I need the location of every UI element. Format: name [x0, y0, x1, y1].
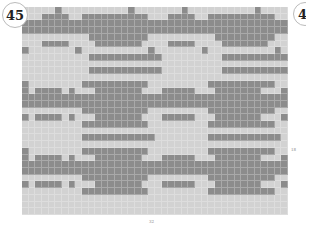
grid-cell [128, 134, 135, 141]
grid-cell [148, 41, 155, 48]
grid-cell [208, 208, 215, 215]
grid-cell [208, 101, 215, 108]
grid-cell [241, 208, 248, 215]
grid-cell [202, 188, 209, 195]
grid-cell [135, 134, 142, 141]
grid-cell [122, 128, 129, 135]
grid-cell [162, 14, 169, 21]
grid-cell [128, 202, 135, 209]
grid-cell [95, 121, 102, 128]
grid-cell [241, 61, 248, 68]
grid-cell [168, 121, 175, 128]
grid-cell [195, 7, 202, 14]
grid-cell [49, 141, 56, 148]
grid-cell [89, 101, 96, 108]
grid-cell [95, 14, 102, 21]
grid-cell [281, 14, 288, 21]
grid-cell [49, 148, 56, 155]
grid-cell [135, 81, 142, 88]
grid-cell [42, 61, 49, 68]
grid-cell [35, 202, 42, 209]
grid-cell [22, 88, 29, 95]
grid-cell [108, 20, 115, 27]
grid-cell [268, 161, 275, 168]
grid-cell [202, 34, 209, 41]
grid-cell [228, 101, 235, 108]
grid-cell [202, 202, 209, 209]
grid-cell [69, 148, 76, 155]
grid-cell [222, 114, 229, 121]
grid-cell [175, 175, 182, 182]
grid-cell [49, 161, 56, 168]
grid-cell [128, 175, 135, 182]
grid-cell [82, 188, 89, 195]
grid-cell [42, 41, 49, 48]
grid-cell [69, 114, 76, 121]
grid-cell [62, 114, 69, 121]
grid-cell [82, 141, 89, 148]
grid-cell [275, 155, 282, 162]
grid-cell [188, 67, 195, 74]
grid-cell [69, 27, 76, 34]
grid-cell [135, 41, 142, 48]
grid-cell [188, 14, 195, 21]
grid-cell [255, 155, 262, 162]
grid-cell [255, 148, 262, 155]
grid-cell [208, 155, 215, 162]
grid-cell [95, 161, 102, 168]
grid-cell [89, 108, 96, 115]
grid-cell [62, 195, 69, 202]
grid-cell [42, 54, 49, 61]
grid-cell [122, 108, 129, 115]
grid-cell [142, 34, 149, 41]
grid-cell [195, 108, 202, 115]
grid-cell [75, 74, 82, 81]
grid-cell [155, 168, 162, 175]
grid-cell [102, 61, 109, 68]
grid-cell [89, 47, 96, 54]
grid-cell [108, 181, 115, 188]
grid-cell [35, 47, 42, 54]
grid-cell [268, 181, 275, 188]
grid-cell [261, 67, 268, 74]
grid-cell [62, 14, 69, 21]
grid-cell [102, 14, 109, 21]
grid-cell [228, 168, 235, 175]
grid-cell [168, 27, 175, 34]
grid-cell [228, 188, 235, 195]
grid-cell [261, 94, 268, 101]
grid-cell [69, 202, 76, 209]
grid-cell [29, 54, 36, 61]
grid-cell [148, 94, 155, 101]
grid-cell [168, 148, 175, 155]
grid-cell [162, 81, 169, 88]
grid-cell [155, 27, 162, 34]
grid-cell [228, 128, 235, 135]
grid-cell [22, 195, 29, 202]
grid-cell [275, 27, 282, 34]
grid-cell [188, 47, 195, 54]
grid-cell [255, 168, 262, 175]
grid-cell [202, 88, 209, 95]
grid-cell [222, 195, 229, 202]
grid-cell [255, 161, 262, 168]
grid-cell [115, 14, 122, 21]
grid-cell [108, 67, 115, 74]
grid-cell [155, 148, 162, 155]
grid-cell [261, 155, 268, 162]
grid-cell [208, 202, 215, 209]
grid-cell [49, 14, 56, 21]
grid-cell [49, 108, 56, 115]
grid-cell [95, 34, 102, 41]
grid-cell [35, 141, 42, 148]
grid-cell [55, 175, 62, 182]
grid-cell [102, 20, 109, 27]
grid-cell [108, 41, 115, 48]
grid-cell [89, 88, 96, 95]
grid-cell [142, 67, 149, 74]
grid-cell [168, 34, 175, 41]
grid-cell [49, 7, 56, 14]
grid-cell [128, 121, 135, 128]
grid-cell [175, 128, 182, 135]
grid-cell [168, 41, 175, 48]
